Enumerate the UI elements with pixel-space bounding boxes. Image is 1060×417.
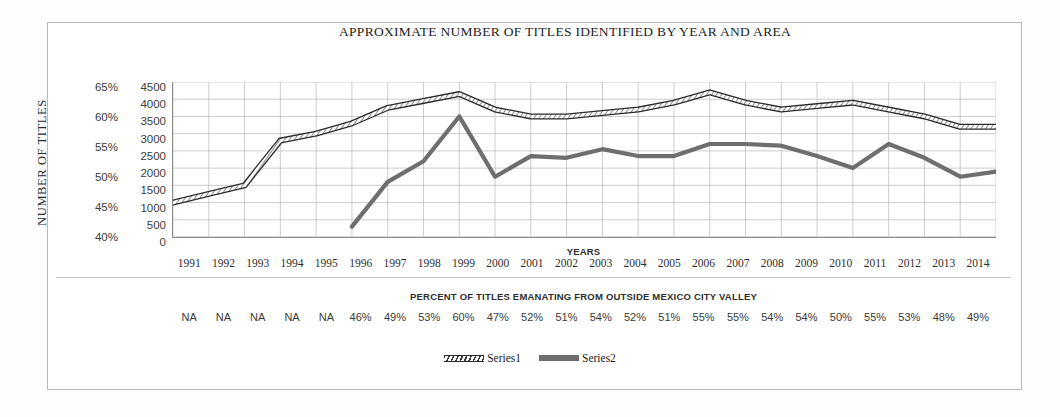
year-label: 2005 [652,257,686,269]
year-label: 2001 [515,257,549,269]
percent-value: 54% [789,311,823,323]
percent-tick-55: 55% [84,142,118,154]
percent-value: 49% [378,311,412,323]
percent-tick-50: 50% [84,172,118,184]
left-percent-axis: 65%60%55%50%45%40% [84,76,118,238]
series-lines [173,92,996,226]
percent-value: 49% [961,311,995,323]
count-tick-1500: 1500 [126,185,166,197]
count-tick-2500: 2500 [126,151,166,163]
year-label: 1995 [309,257,343,269]
year-label: 1998 [412,257,446,269]
percent-value: 50% [824,311,858,323]
year-label: 2007 [721,257,755,269]
year-label: 1996 [343,257,377,269]
percent-value: NA [172,311,206,323]
series-canvas [173,82,996,237]
percent-value: NA [309,311,343,323]
year-label: 2012 [892,257,926,269]
y-axis-title: NUMBER OF TITLES [35,88,50,238]
x-axis-tick-labels: 1991199219931994199519961997199819992000… [172,257,995,269]
x-axis-title: YEARS [172,246,995,257]
plot-area [172,82,996,238]
percent-value: 51% [652,311,686,323]
legend-item-series2: Series2 [539,352,616,364]
percent-tick-60: 60% [84,112,118,124]
year-label: 2013 [927,257,961,269]
percent-value: 46% [343,311,377,323]
year-label: 2010 [824,257,858,269]
percent-value: 53% [892,311,926,323]
year-label: 1997 [378,257,412,269]
percent-tick-45: 45% [84,202,118,214]
series2-swatch-icon [539,355,579,361]
percent-value: 48% [927,311,961,323]
percent-value: 52% [618,311,652,323]
series1-swatch-icon [444,355,484,362]
percent-value: 47% [481,311,515,323]
year-label: 2004 [618,257,652,269]
percent-value: NA [241,311,275,323]
year-label: 1991 [172,257,206,269]
count-tick-0: 0 [126,237,166,249]
percent-band-title: PERCENT OF TITLES EMANATING FROM OUTSIDE… [172,291,995,302]
year-label: 2006 [686,257,720,269]
count-tick-2000: 2000 [126,168,166,180]
chart-figure: APPROXIMATE NUMBER OF TITLES IDENTIFIED … [0,0,1060,417]
year-label: 1994 [275,257,309,269]
percent-tick-65: 65% [84,82,118,94]
legend-label-series1: Series1 [487,352,521,364]
count-tick-500: 500 [126,220,166,232]
percent-value: NA [206,311,240,323]
count-tick-3500: 3500 [126,116,166,128]
year-label: 2002 [549,257,583,269]
year-label: 1992 [206,257,240,269]
year-label: 2003 [584,257,618,269]
chart-legend: Series1 Series2 [0,352,1060,364]
percent-tick-40: 40% [84,232,118,244]
year-label: 1993 [241,257,275,269]
percent-value: 55% [721,311,755,323]
legend-label-series2: Series2 [582,352,616,364]
year-label: 2000 [481,257,515,269]
percent-value: 54% [755,311,789,323]
count-tick-1000: 1000 [126,203,166,215]
count-tick-3000: 3000 [126,134,166,146]
year-label: 2008 [755,257,789,269]
year-label: 2014 [961,257,995,269]
percent-value: 60% [446,311,480,323]
percent-value: 54% [584,311,618,323]
chart-title: APPROXIMATE NUMBER OF TITLES IDENTIFIED … [0,24,1060,40]
section-divider [56,277,1011,278]
legend-item-series1: Series1 [444,352,521,364]
percent-value: 52% [515,311,549,323]
year-label: 2009 [789,257,823,269]
percent-value-row: NANANANANA46%49%53%60%47%52%51%54%52%51%… [172,311,995,323]
right-count-axis: 450040003500300025002000150010005000 [126,76,166,238]
year-label: 1999 [446,257,480,269]
percent-value: NA [275,311,309,323]
percent-value: 55% [686,311,720,323]
percent-value: 55% [858,311,892,323]
count-tick-4500: 4500 [126,82,166,94]
series1-line-outline [173,92,996,202]
percent-value: 51% [549,311,583,323]
year-label: 2011 [858,257,892,269]
percent-value: 53% [412,311,446,323]
count-tick-4000: 4000 [126,99,166,111]
